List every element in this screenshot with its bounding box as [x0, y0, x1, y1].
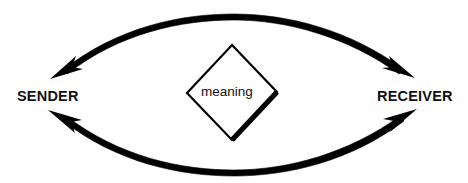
meaning-node-label: meaning: [201, 85, 253, 99]
receiver-node-label: RECEIVER: [377, 89, 453, 104]
sender-node-label: SENDER: [17, 89, 79, 104]
communication-model-diagram: SENDER RECEIVER meaning: [0, 0, 468, 183]
